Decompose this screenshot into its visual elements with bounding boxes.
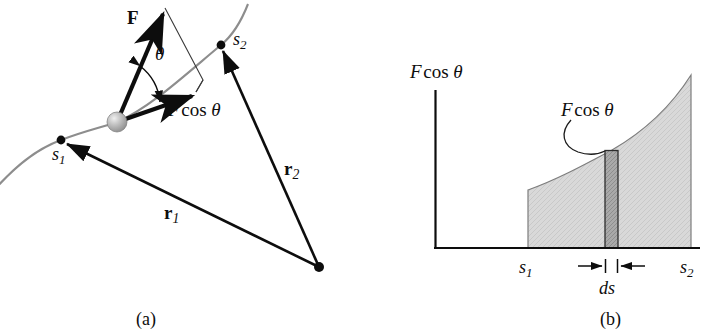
label-s2-base: s (233, 29, 240, 49)
ds-label: ds (599, 279, 615, 297)
panel-a-caption: (a) (136, 310, 156, 328)
y-axis-label-F: F (410, 61, 422, 82)
label-s1-base: s (52, 144, 59, 164)
parallelogram-construction-edge (196, 80, 203, 92)
work-of-force-figure: F θ F cos θ s1 s2 r1 r2 (a) F cos θ F co… (0, 0, 703, 336)
label-force-F: F (127, 8, 139, 27)
y-axis-label-cos: cos (423, 61, 448, 82)
particle-sphere (107, 112, 127, 132)
label-r2-subscript: 2 (292, 167, 299, 182)
figure-vector-layer (0, 0, 703, 336)
label-point-s2: s2 (233, 30, 247, 48)
differential-strip-ds (605, 151, 618, 249)
label-s1-subscript: 1 (59, 152, 65, 167)
label-projection-fcostheta: F cos θ (168, 100, 221, 119)
callout-label-F: F (561, 99, 573, 120)
callout-leader-line (564, 120, 605, 154)
x-tick-s1-base: s (519, 257, 526, 277)
label-r1-subscript: 1 (172, 211, 179, 226)
label-projection-cos: cos (181, 99, 206, 120)
x-tick-s2-base: s (680, 257, 687, 277)
label-s2-subscript: 2 (240, 37, 246, 52)
label-point-s1: s1 (52, 145, 66, 163)
position-vector-r2 (223, 51, 319, 267)
y-axis-label: F cos θ (410, 62, 463, 81)
label-projection-theta: θ (211, 99, 220, 120)
label-projection-F: F (168, 99, 180, 120)
parallelogram-construction-lines (165, 8, 203, 92)
x-tick-label-s1: s1 (519, 258, 533, 276)
label-vector-r1: r1 (164, 203, 179, 222)
callout-label-theta: θ (604, 99, 613, 120)
x-tick-label-s2: s2 (680, 258, 694, 276)
particle-path-curve (0, 4, 248, 188)
callout-label-fcostheta: F cos θ (561, 100, 614, 119)
y-axis-label-theta: θ (453, 61, 462, 82)
panel-b-caption: (b) (600, 310, 621, 328)
label-angle-theta: θ (155, 44, 164, 63)
position-vector-r1 (67, 144, 319, 267)
callout-label-cos: cos (574, 99, 599, 120)
point-dot-origin (314, 262, 324, 272)
x-tick-s2-subscript: 2 (687, 265, 693, 280)
point-dot-s2 (217, 41, 226, 50)
label-vector-r2: r2 (284, 159, 299, 178)
x-tick-s1-subscript: 1 (526, 265, 532, 280)
force-vector-F (117, 14, 163, 122)
